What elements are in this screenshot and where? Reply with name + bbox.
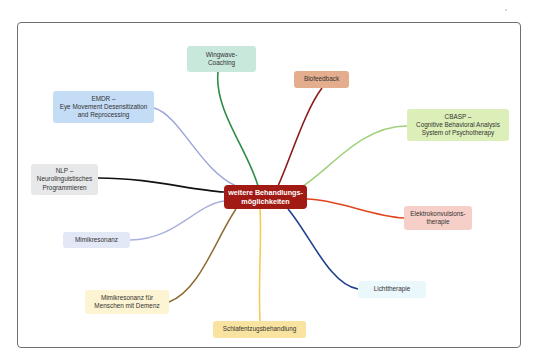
node-lichttherapie-label: Lichttherapie: [374, 285, 411, 293]
link-wingwave: [218, 72, 258, 186]
link-nlp: [98, 178, 224, 192]
node-wingwave-line-2: Coaching: [206, 59, 238, 67]
node-cbasp-line-1: CBASP –: [416, 113, 500, 121]
center-node-line-1: weitere Behandlungs-: [228, 188, 303, 197]
link-elektrokonvulsion: [307, 199, 404, 218]
link-biofeedback: [278, 88, 322, 186]
node-biofeedback[interactable]: Biofeedback: [294, 71, 349, 88]
node-schlafentzug[interactable]: Schlafentzugsbehandlung: [213, 321, 306, 338]
node-cbasp-line-2: Cognitive Behavioral Analysis: [416, 121, 500, 129]
link-emdr: [154, 108, 236, 186]
node-nlp[interactable]: NLP – Neurolinguistisches Programmieren: [31, 164, 98, 195]
center-node[interactable]: weitere Behandlungs- möglichkeiten: [224, 185, 307, 209]
node-mimikresonanz-demenz-line-1: Mimikresonanz für: [94, 294, 159, 302]
node-nlp-line-2: Neurolinguistisches: [37, 175, 92, 183]
node-biofeedback-label: Biofeedback: [304, 75, 339, 83]
center-node-line-2: möglichkeiten: [228, 197, 303, 206]
node-mimikresonanz-label: Mimikresonanz: [75, 236, 118, 244]
link-mimikresonanz-demenz: [169, 209, 236, 302]
link-cbasp: [300, 126, 407, 188]
node-wingwave[interactable]: Wingwave- Coaching: [187, 46, 256, 72]
node-nlp-line-1: NLP –: [37, 167, 92, 175]
node-nlp-line-3: Programmieren: [37, 184, 92, 192]
node-wingwave-line-1: Wingwave-: [206, 51, 238, 59]
node-cbasp[interactable]: CBASP – Cognitive Behavioral Analysis Sy…: [407, 109, 509, 141]
node-lichttherapie[interactable]: Lichttherapie: [358, 281, 426, 298]
link-lichttherapie: [288, 209, 358, 289]
node-elektrokonvulsion-line-1: Elektrokonvulsions-: [410, 210, 465, 218]
node-emdr-line-3: and Reprocessing: [60, 111, 148, 119]
node-schlafentzug-label: Schlafentzugsbehandlung: [223, 325, 297, 333]
node-emdr-line-2: Eye Movement Desensitization: [60, 103, 148, 111]
node-elektrokonvulsion-line-2: therapie: [410, 218, 465, 226]
link-mimikresonanz: [130, 201, 224, 240]
link-schlafentzug: [259, 209, 260, 321]
node-mimikresonanz-demenz[interactable]: Mimikresonanz für Menschen mit Demenz: [85, 290, 169, 314]
node-elektrokonvulsion[interactable]: Elektrokonvulsions- therapie: [404, 206, 472, 230]
node-emdr-line-1: EMDR –: [60, 95, 148, 103]
node-mimikresonanz[interactable]: Mimikresonanz: [63, 232, 130, 248]
node-emdr[interactable]: EMDR – Eye Movement Desensitization and …: [53, 91, 154, 123]
node-mimikresonanz-demenz-line-2: Menschen mit Demenz: [94, 302, 159, 310]
node-cbasp-line-3: System of Psychotherapy: [416, 129, 500, 137]
